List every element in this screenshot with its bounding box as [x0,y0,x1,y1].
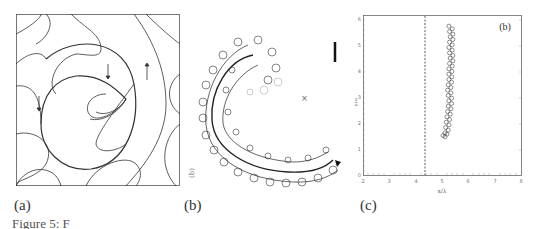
panel-a-streamlines [16,14,180,186]
svg-text:4: 4 [414,178,417,184]
streamline-plot [16,14,180,186]
trajectory-arrowhead [335,160,341,167]
inset-label: (b) [499,21,511,33]
y-tick-labels: 012 3456 [358,16,361,178]
svg-text:3: 3 [387,178,390,184]
svg-text:7: 7 [493,178,496,184]
svg-text:1: 1 [358,146,361,152]
svg-text:6: 6 [358,16,361,22]
svg-text:6: 6 [466,178,469,184]
panel-a-label: (a) [14,197,31,214]
svg-text:5: 5 [358,42,361,48]
svg-text:3: 3 [358,94,361,100]
panel-c-label: (c) [360,197,377,214]
x-tick-labels: 234 5678 [361,178,522,184]
svg-text:2: 2 [361,178,364,184]
svg-text:8: 8 [519,178,522,184]
panel-b-trajectory: × (b) [188,20,358,190]
trajectory-plot: × (b) [188,20,358,190]
svg-text:2: 2 [358,120,361,126]
panel-c-chart: 012 3456 234 5678 x/λ y/λ (b) [355,10,536,205]
trajectory-chart: 012 3456 234 5678 x/λ y/λ (b) [355,10,536,205]
svg-text:5: 5 [440,178,443,184]
rotated-panel-label: (b) [188,168,196,178]
svg-text:4: 4 [358,68,361,74]
x-axis-label: x/λ [437,187,446,194]
panel-b-label: (b) [184,197,202,214]
figure-caption-fragment: Figure 5: F [12,216,70,229]
trajectory-series [441,24,455,139]
center-marker: × [301,94,308,103]
